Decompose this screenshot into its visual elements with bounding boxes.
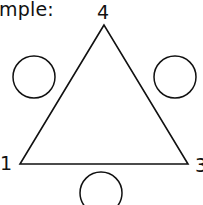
- triangle-diagram: [0, 0, 203, 205]
- circle-left[interactable]: [13, 56, 55, 98]
- circle-bottom[interactable]: [80, 172, 122, 205]
- circle-right[interactable]: [154, 56, 196, 98]
